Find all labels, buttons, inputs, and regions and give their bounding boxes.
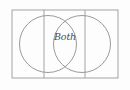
venn-diagram-svg: Both <box>0 0 130 90</box>
intersection-label: Both <box>53 31 76 42</box>
right-set-circle <box>54 16 111 73</box>
outer-rectangle <box>12 10 118 78</box>
left-set-circle <box>20 16 77 73</box>
venn-diagram-container: Both <box>0 0 130 90</box>
